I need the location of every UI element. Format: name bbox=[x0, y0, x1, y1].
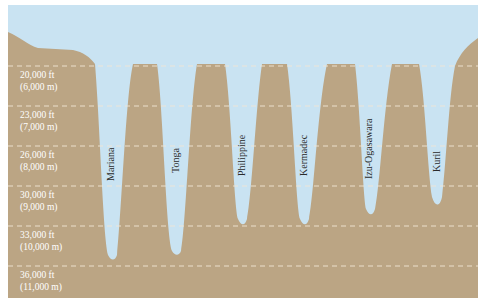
trench-label-philippine: Philippine bbox=[236, 135, 247, 176]
depth-label-20000: 20,000 ft (6,000 m) bbox=[20, 69, 57, 93]
depth-label-23000: 23,000 ft (7,000 m) bbox=[20, 109, 57, 133]
depth-ft: 33,000 ft bbox=[20, 229, 62, 241]
depth-label-33000: 33,000 ft (10,000 m) bbox=[20, 229, 62, 253]
depth-m: (7,000 m) bbox=[20, 121, 57, 133]
trench-label-izu-ogasawara: Izu-Ogasawara bbox=[363, 118, 374, 179]
trench-label-mariana: Mariana bbox=[105, 148, 116, 181]
depth-m: (9,000 m) bbox=[20, 201, 57, 213]
depth-label-30000: 30,000 ft (9,000 m) bbox=[20, 189, 57, 213]
depth-ft: 36,000 ft bbox=[20, 269, 62, 281]
trench-label-kermadec: Kermadec bbox=[298, 135, 309, 176]
trench-label-kuril: Kuril bbox=[431, 151, 442, 172]
depth-m: (11,000 m) bbox=[20, 281, 62, 293]
depth-ft: 26,000 ft bbox=[20, 149, 57, 161]
depth-m: (8,000 m) bbox=[20, 161, 57, 173]
depth-label-36000: 36,000 ft (11,000 m) bbox=[20, 269, 62, 293]
depth-ft: 30,000 ft bbox=[20, 189, 57, 201]
depth-label-26000: 26,000 ft (8,000 m) bbox=[20, 149, 57, 173]
trench-label-tonga: Tonga bbox=[170, 148, 181, 173]
depth-ft: 20,000 ft bbox=[20, 69, 57, 81]
depth-ft: 23,000 ft bbox=[20, 109, 57, 121]
depth-m: (10,000 m) bbox=[20, 241, 62, 253]
depth-m: (6,000 m) bbox=[20, 81, 57, 93]
trench-depth-diagram: 20,000 ft (6,000 m) 23,000 ft (7,000 m) … bbox=[8, 5, 478, 298]
